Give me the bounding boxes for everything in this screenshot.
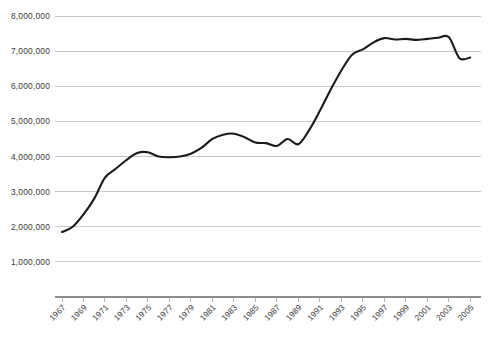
x-axis-tick-label: 1977: [155, 303, 175, 323]
data-line-series-1: [62, 36, 470, 232]
x-axis-tick-labels: 1967196919711973197519771979198119831985…: [48, 303, 476, 323]
x-axis-tick-label: 1981: [198, 303, 218, 323]
y-axis-tick-labels: 1,000,0002,000,0003,000,0004,000,0005,00…: [11, 11, 50, 267]
x-axis-tick-label: 1983: [220, 303, 240, 323]
x-axis-tick-label: 2001: [413, 303, 433, 323]
y-axis-tick-label: 7,000,000: [11, 46, 50, 56]
x-axis-tick-label: 1973: [112, 303, 132, 323]
x-axis-tick-label: 1967: [48, 303, 68, 323]
y-axis-tick-label: 4,000,000: [11, 152, 50, 162]
x-axis-tick-label: 1995: [349, 303, 369, 323]
x-axis-tick-label: 1989: [284, 303, 304, 323]
y-axis-tick-label: 3,000,000: [11, 187, 50, 197]
x-axis-tick-label: 1993: [327, 303, 347, 323]
gridlines-group: [55, 16, 481, 297]
y-axis-tick-label: 5,000,000: [11, 116, 50, 126]
x-axis-tick-label: 1985: [241, 303, 261, 323]
x-axis-tick-label: 1997: [370, 303, 390, 323]
x-axis-tick-label: 1999: [392, 303, 412, 323]
x-axis-tick-label: 1991: [306, 303, 326, 323]
y-axis-tick-label: 8,000,000: [11, 11, 50, 21]
line-chart-figure: 1,000,0002,000,0003,000,0004,000,0005,00…: [0, 0, 493, 342]
x-axis-tick-label: 1969: [69, 303, 89, 323]
y-axis-tick-label: 2,000,000: [11, 222, 50, 232]
x-axis-tick-label: 1971: [91, 303, 111, 323]
x-axis-tick-label: 1975: [134, 303, 154, 323]
x-axis-tick-label: 1987: [263, 303, 283, 323]
x-axis-tick-marks: [62, 298, 470, 302]
y-axis-tick-label: 1,000,000: [11, 257, 50, 267]
x-axis-tick-label: 2003: [435, 303, 455, 323]
data-series-group: [62, 36, 470, 232]
x-axis-tick-label: 1979: [177, 303, 197, 323]
chart-canvas: 1,000,0002,000,0003,000,0004,000,0005,00…: [0, 0, 493, 342]
y-axis-tick-label: 6,000,000: [11, 81, 50, 91]
x-axis-tick-label: 2005: [456, 303, 476, 323]
